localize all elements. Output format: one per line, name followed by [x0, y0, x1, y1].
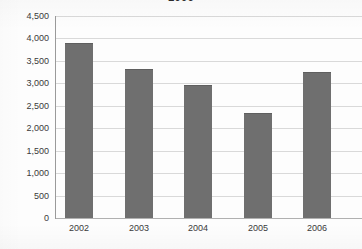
x-axis-tick-label: 2002 — [49, 224, 109, 233]
y-axis-tick-label: 3,000 — [3, 79, 49, 88]
gridline — [55, 61, 362, 62]
y-axis-tick-label: 4,500 — [3, 12, 49, 21]
y-axis-tick-label: 0 — [3, 214, 49, 223]
x-axis-tick-label: 2004 — [168, 224, 228, 233]
x-axis-tick-label: 2003 — [109, 224, 169, 233]
bar — [65, 43, 93, 218]
y-axis-tick-label: 2,500 — [3, 102, 49, 111]
plot-area — [55, 16, 362, 218]
y-axis-tick-label: 3,500 — [3, 57, 49, 66]
bar — [303, 72, 331, 218]
bar — [244, 113, 272, 218]
bar-chart: 2006 05001,0001,5002,0002,5003,0003,5004… — [0, 0, 362, 249]
y-axis-tick-label: 1,500 — [3, 147, 49, 156]
y-axis-tick-label: 4,000 — [3, 34, 49, 43]
y-axis-tick-label: 1,000 — [3, 169, 49, 178]
y-axis-line — [55, 16, 56, 219]
chart-title: 2006 — [0, 0, 362, 3]
x-axis-tick-label: 2006 — [287, 224, 347, 233]
bar — [125, 69, 153, 218]
gridline — [55, 38, 362, 39]
x-axis-tick-label: 2005 — [228, 224, 288, 233]
bar — [184, 85, 212, 218]
axis-baseline — [55, 218, 362, 219]
y-axis-tick-label: 2,000 — [3, 124, 49, 133]
gridline — [55, 16, 362, 17]
y-axis-tick-label: 500 — [3, 192, 49, 201]
